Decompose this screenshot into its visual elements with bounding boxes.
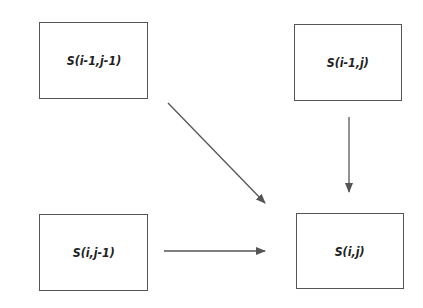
node-s-i-j: S(i,j) — [296, 213, 404, 289]
node-s-i-1-j: S(i-1,j) — [294, 24, 402, 101]
node-s-i-j-1: S(i,j-1) — [39, 214, 148, 291]
node-label: S(i-1,j-1) — [66, 53, 120, 68]
node-label: S(i,j-1) — [72, 245, 114, 260]
node-s-i-1-j-1: S(i-1,j-1) — [39, 22, 148, 99]
node-label: S(i,j) — [335, 244, 365, 259]
node-label: S(i-1,j) — [327, 55, 369, 70]
arrow-diagonal — [168, 103, 265, 203]
